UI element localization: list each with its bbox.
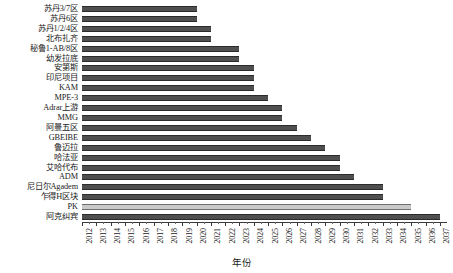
x-axis-tick-label: 2034	[400, 228, 408, 244]
x-axis-minor-tick	[275, 222, 276, 224]
bar	[82, 105, 282, 111]
x-axis-tick-label: 2032	[372, 228, 380, 244]
bar	[82, 16, 197, 22]
x-axis-tick	[311, 222, 312, 226]
y-axis-label: 哈法亚	[54, 153, 78, 162]
x-axis-tick-label: 2025	[272, 228, 280, 244]
x-axis-tick	[125, 222, 126, 226]
y-axis-label: 幼发拉底	[46, 54, 78, 63]
bar	[82, 125, 297, 131]
x-axis-minor-tick	[347, 222, 348, 224]
x-axis-minor-tick	[247, 222, 248, 224]
x-axis-minor-tick	[218, 222, 219, 224]
x-axis-tick	[383, 222, 384, 226]
y-axis-label: Adrar上游	[43, 104, 78, 113]
x-axis-tick	[239, 222, 240, 226]
y-axis-label: 阿曼五区	[46, 124, 78, 133]
x-axis-tick-label: 2024	[257, 228, 265, 244]
x-axis-minor-tick	[433, 222, 434, 224]
x-axis-tick-label: 2014	[114, 228, 122, 244]
x-axis-minor-tick	[304, 222, 305, 224]
x-axis-minor-tick	[290, 222, 291, 224]
x-axis-tick	[254, 222, 255, 226]
x-axis-tick	[397, 222, 398, 226]
y-axis-label: MMG	[58, 114, 78, 123]
bar	[82, 65, 254, 71]
x-axis-tick	[139, 222, 140, 226]
plot-area	[82, 4, 447, 222]
x-axis-tick	[325, 222, 326, 226]
bar	[82, 145, 325, 151]
x-axis-tick	[440, 222, 441, 226]
x-axis-tick-label: 2037	[443, 228, 451, 244]
bar	[82, 204, 411, 210]
x-axis-tick-label: 2016	[143, 228, 151, 244]
x-axis-tick-label: 2020	[200, 228, 208, 244]
x-axis-tick-label: 2023	[243, 228, 251, 244]
bar	[82, 75, 254, 81]
x-axis-tick-label: 2036	[429, 228, 437, 244]
x-axis-minor-tick	[146, 222, 147, 224]
y-axis-label: 阿克纠宾	[46, 213, 78, 222]
x-axis-tick	[354, 222, 355, 226]
y-axis-category-labels: 苏丹3/7区苏丹6区苏丹1/2/4区北布扎齐秘鲁1-AB/8区幼发拉底安第斯印尼…	[0, 4, 80, 222]
x-axis-minor-tick	[261, 222, 262, 224]
y-axis-label: 苏丹3/7区	[44, 5, 78, 14]
y-axis-label: KAM	[59, 84, 78, 93]
x-axis-tick	[426, 222, 427, 226]
y-axis-label: GBEIBE	[49, 134, 78, 143]
x-axis-tick	[282, 222, 283, 226]
bar	[82, 95, 268, 101]
x-axis-minor-tick	[418, 222, 419, 224]
bar	[82, 135, 311, 141]
x-axis-tick-label: 2030	[343, 228, 351, 244]
x-axis-tick-label: 2033	[386, 228, 394, 244]
y-axis-label: 尼日尔Agadem	[27, 183, 78, 192]
x-axis-minor-tick	[318, 222, 319, 224]
x-axis-minor-tick	[375, 222, 376, 224]
y-axis-label: 苏丹6区	[50, 15, 78, 24]
y-axis-label: 苏丹1/2/4区	[38, 25, 78, 34]
x-axis-tick-label: 2026	[286, 228, 294, 244]
x-axis-title-text: 年份	[202, 258, 252, 268]
x-axis-minor-tick	[161, 222, 162, 224]
x-axis-tick	[411, 222, 412, 226]
x-axis-minor-tick	[189, 222, 190, 224]
x-axis-tick	[111, 222, 112, 226]
bar	[82, 155, 340, 161]
bar	[82, 174, 354, 180]
bar	[82, 36, 211, 42]
x-axis-line	[82, 222, 447, 223]
y-axis-label: 艾哈代布	[46, 163, 78, 172]
x-axis-tick-label: 2021	[214, 228, 222, 244]
x-axis-tick	[225, 222, 226, 226]
x-axis-tick-label: 2035	[415, 228, 423, 244]
bar	[82, 165, 340, 171]
x-axis-tick	[154, 222, 155, 226]
x-axis-tick-label: 2028	[315, 228, 323, 244]
horizontal-bar-chart: 苏丹3/7区苏丹6区苏丹1/2/4区北布扎齐秘鲁1-AB/8区幼发拉底安第斯印尼…	[0, 0, 453, 273]
x-axis-minor-tick	[390, 222, 391, 224]
y-axis-label: MPE-3	[55, 94, 78, 103]
y-axis-label: 乍得H区块	[41, 193, 79, 202]
x-axis-tick-label: 2018	[171, 228, 179, 244]
bar	[82, 115, 282, 121]
x-axis-tick	[297, 222, 298, 226]
y-axis-label: 北布扎齐	[46, 34, 78, 43]
x-axis-tick-label: 2012	[86, 228, 94, 244]
x-axis-tick-label: 2015	[128, 228, 136, 244]
x-axis-tick-label: 2022	[229, 228, 237, 244]
x-axis-tick-label: 2013	[100, 228, 108, 244]
bar	[82, 6, 197, 12]
bar	[82, 46, 239, 52]
x-axis-tick	[268, 222, 269, 226]
x-axis-minor-tick	[118, 222, 119, 224]
bar	[82, 214, 440, 220]
x-axis-tick-label: 2017	[157, 228, 165, 244]
x-axis-tick	[182, 222, 183, 226]
x-axis-minor-tick	[404, 222, 405, 224]
x-axis-tick-label: 2031	[357, 228, 365, 244]
x-axis-tick	[96, 222, 97, 226]
y-axis-label: 安第斯	[54, 64, 78, 73]
x-axis-tick	[211, 222, 212, 226]
